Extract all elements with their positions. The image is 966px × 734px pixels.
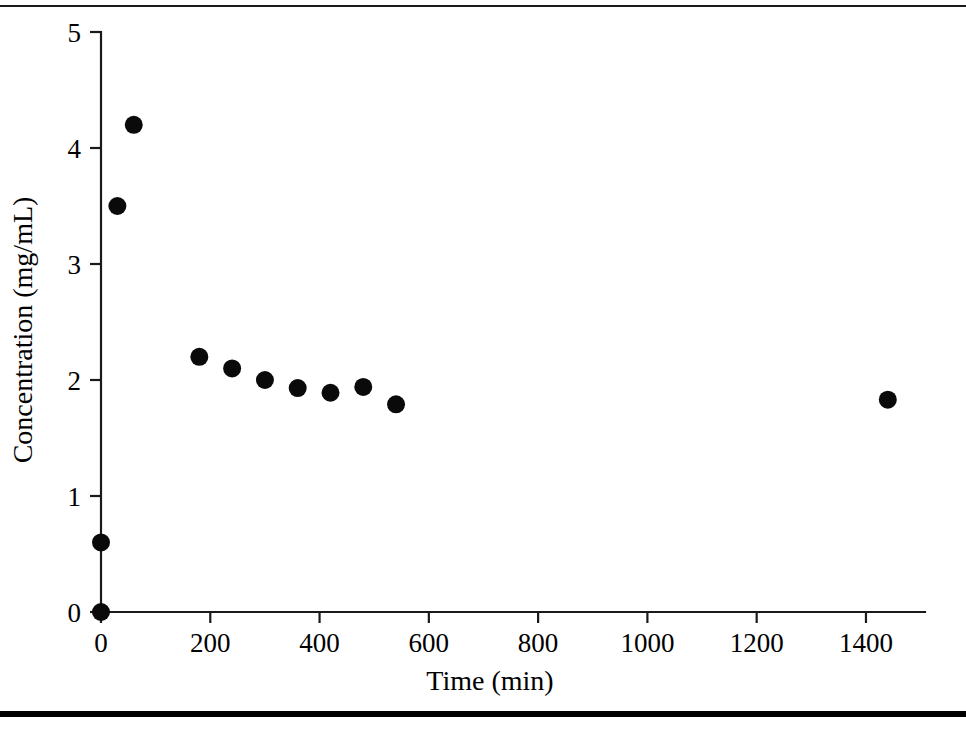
x-tick-label: 800 [518,628,559,658]
page-rule-bottom [0,711,966,717]
x-axis-title: Time (min) [426,665,553,696]
axes [101,32,925,612]
data-point [387,395,405,413]
y-tick-label: 2 [68,366,82,396]
data-point [223,359,241,377]
x-tick-label: 1200 [730,628,784,658]
data-point [125,116,143,134]
x-tick-label: 0 [94,628,108,658]
x-tick-label: 600 [409,628,450,658]
y-tick-label: 4 [68,134,82,164]
data-point [92,603,110,621]
x-axis-ticks: 0200400600800100012001400 [94,612,893,658]
x-tick-label: 1400 [839,628,893,658]
data-point [190,348,208,366]
y-tick-label: 0 [68,598,82,628]
data-point [256,371,274,389]
data-point-group [92,116,897,621]
data-point [92,533,110,551]
page-rule-top [0,5,966,7]
y-tick-label: 5 [68,18,82,48]
data-point [108,197,126,215]
data-point [354,378,372,396]
x-tick-label: 400 [299,628,340,658]
data-point [879,391,897,409]
figure-page: 0200400600800100012001400 012345 Time (m… [0,0,966,734]
data-point [321,384,339,402]
chart-figure: 0200400600800100012001400 012345 Time (m… [0,8,966,708]
data-point [289,379,307,397]
scatter-plot: 0200400600800100012001400 012345 Time (m… [0,8,966,708]
y-tick-label: 1 [68,482,82,512]
x-tick-label: 1000 [620,628,674,658]
y-tick-label: 3 [68,250,82,280]
y-axis-title: Concentration (mg/mL) [7,197,38,464]
x-tick-label: 200 [190,628,231,658]
